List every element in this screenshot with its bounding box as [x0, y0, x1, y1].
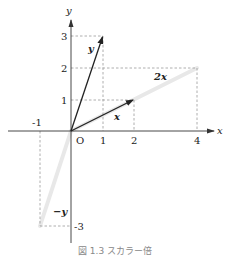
y-tick-2: 2: [61, 63, 67, 74]
x-tick-neg1: -1: [32, 117, 42, 128]
y-tick-neg3: -3: [74, 221, 84, 232]
x-tick-4: 4: [194, 135, 200, 146]
x-axis-label: x: [217, 125, 223, 136]
x-tick-2: 2: [131, 135, 137, 146]
y-axis-label: y: [65, 5, 72, 16]
vector-2x-label: 2x: [153, 71, 168, 82]
diagram-canvas: x y -1 1 2 4 1 2 3 -3 O x y 2x −y: [0, 0, 230, 257]
y-tick-3: 3: [61, 31, 67, 42]
x-tick-1: 1: [100, 135, 106, 146]
origin-label: O: [76, 135, 84, 146]
figure-caption: 図 1.3 スカラー倍: [0, 244, 230, 257]
vector-neg-y-label: −y: [53, 206, 68, 217]
y-tick-1: 1: [61, 95, 67, 106]
vector-y-label: y: [87, 43, 95, 54]
vector-x-label: x: [113, 111, 121, 122]
